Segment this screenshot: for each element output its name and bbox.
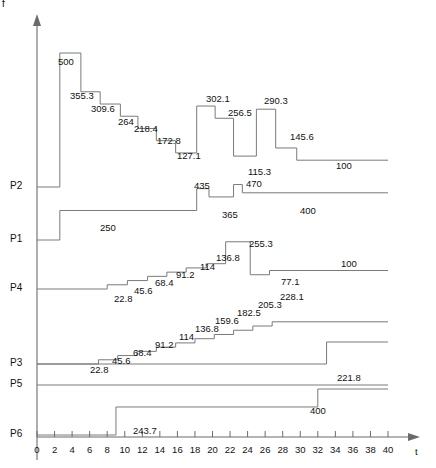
value-label-p2: 302.1 — [206, 93, 230, 104]
x-tick-label: 34 — [326, 444, 344, 455]
value-label-p2: 256.5 — [228, 107, 252, 118]
value-label-p2: 127.1 — [177, 150, 201, 161]
x-tick-label: 10 — [116, 444, 134, 455]
value-label-p2: 309.6 — [91, 103, 115, 114]
x-tick-label: 30 — [291, 444, 309, 455]
value-label-p6: 243.7 — [133, 425, 157, 436]
value-label-p4: 136.8 — [216, 252, 240, 263]
x-tick-label: 2 — [46, 444, 64, 455]
axes-layer — [33, 14, 420, 460]
value-label-p2: 115.3 — [248, 166, 271, 177]
value-label-p4: 77.1 — [281, 276, 300, 287]
value-label-p4: 255.3 — [249, 238, 273, 249]
value-label-p2: 172.8 — [157, 135, 181, 146]
value-label-p3: 68.4 — [133, 347, 152, 358]
x-tick-label: 26 — [256, 444, 274, 455]
value-label-p4: 22.8 — [114, 293, 133, 304]
y-axis-title: f — [2, 0, 5, 9]
value-label-p3: 45.6 — [112, 355, 131, 366]
y-axis-arrow — [33, 14, 41, 26]
value-label-p1: 250 — [100, 222, 116, 233]
step-curve-p3-branch — [37, 342, 388, 364]
value-label-p2: 218.4 — [134, 123, 158, 134]
value-label-p3: 228.1 — [280, 291, 304, 302]
x-tick-marks — [37, 431, 388, 437]
value-label-p4: 68.4 — [155, 277, 174, 288]
value-label-p4: 100 — [341, 258, 357, 269]
value-label-p3: 205.3 — [258, 299, 282, 310]
x-tick-label: 20 — [204, 444, 222, 455]
step-curves-layer — [37, 53, 388, 435]
x-tick-label: 32 — [309, 444, 327, 455]
step-curve-p1 — [37, 185, 388, 240]
value-label-p2: 290.3 — [264, 95, 288, 106]
step-curve-p6 — [37, 389, 388, 435]
baseline-label-p4: P4 — [10, 282, 22, 293]
x-tick-label: 24 — [239, 444, 257, 455]
value-label-p2: 355.3 — [70, 90, 94, 101]
value-label-p1: 365 — [222, 209, 238, 220]
baseline-label-p3: P3 — [10, 357, 22, 368]
value-label-p2: 100 — [336, 160, 352, 171]
x-tick-label: 6 — [81, 444, 99, 455]
value-label-p6: 400 — [310, 405, 326, 416]
x-tick-label: 14 — [151, 444, 169, 455]
x-tick-label: 28 — [274, 444, 292, 455]
x-tick-label: 8 — [98, 444, 116, 455]
x-axis-arrow — [408, 433, 420, 441]
x-axis-title: t — [415, 446, 418, 457]
value-label-p2: 145.6 — [290, 131, 314, 142]
baseline-label-p2: P2 — [10, 180, 22, 191]
value-label-p3: 91.2 — [155, 339, 174, 350]
x-tick-label: 18 — [186, 444, 204, 455]
value-label-p3: 159.6 — [215, 315, 239, 326]
value-label-p3: 114 — [179, 331, 194, 342]
chart-figure: 0246810121416182022242628303234363840 P2… — [0, 0, 436, 468]
value-label-p3: 221.8 — [337, 372, 361, 383]
value-label-p1: 400 — [300, 205, 316, 216]
x-tick-label: 12 — [133, 444, 151, 455]
value-label-p4: 91.2 — [176, 269, 195, 280]
value-label-p4: 114 — [200, 261, 215, 272]
x-tick-label: 38 — [361, 444, 379, 455]
x-tick-label: 16 — [168, 444, 186, 455]
value-label-p1: 435 — [194, 180, 210, 191]
value-label-p4: 45.6 — [134, 285, 153, 296]
value-label-p2: 264 — [118, 116, 134, 127]
baseline-label-p6: P6 — [10, 428, 22, 439]
x-tick-label: 36 — [344, 444, 362, 455]
chart-canvas — [0, 0, 436, 468]
x-tick-label: 40 — [379, 444, 397, 455]
baseline-label-p1: P1 — [10, 233, 22, 244]
value-label-p2: 500 — [58, 56, 74, 67]
value-label-p1: 470 — [246, 178, 262, 189]
baseline-label-p5: P5 — [10, 378, 22, 389]
x-tick-label: 22 — [221, 444, 239, 455]
x-tick-label: 4 — [63, 444, 81, 455]
value-label-p3: 22.8 — [90, 364, 109, 375]
x-tick-label: 0 — [28, 444, 46, 455]
